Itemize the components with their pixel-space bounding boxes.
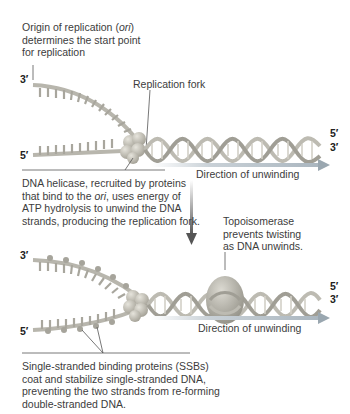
- topo-label-line3: as DNA unwinds.: [223, 240, 303, 253]
- top-strand-3prime-right: 3′: [330, 141, 338, 153]
- ssb-caption-line1: Single-stranded binding proteins (SSBs): [22, 360, 220, 373]
- ssb-caption: Single-stranded binding proteins (SSBs) …: [22, 360, 220, 410]
- helicase-caption: DNA helicase, recruited by proteins that…: [22, 177, 200, 227]
- fork-pointer-line: [146, 90, 150, 150]
- helicase-protein-bottom: [123, 290, 149, 322]
- replication-fork-label: Replication fork: [133, 78, 205, 91]
- bottom-panel-dna: [22, 252, 330, 353]
- ssb-caption-line3: preventing the two strands from re-formi…: [22, 385, 220, 398]
- direction-label-top: Direction of unwinding: [196, 168, 299, 180]
- helicase-ori-abbrev: ori: [94, 190, 106, 202]
- ori-label: Origin of replication (ori) determines t…: [22, 21, 140, 59]
- ori-label-line1: Origin of replication (: [22, 21, 119, 33]
- helicase-caption-line1: DNA helicase, recruited by proteins: [22, 177, 200, 190]
- topo-label-line2: prevents twisting: [223, 228, 303, 241]
- topo-label-line1: Topoisomerase: [223, 215, 303, 228]
- topoisomerase-label: Topoisomerase prevents twisting as DNA u…: [223, 215, 303, 253]
- helicase-caption-line4: strands, producing the replication fork.: [22, 215, 200, 228]
- ssb-caption-line4: double-stranded DNA.: [22, 398, 220, 411]
- helicase-bracket: [22, 158, 165, 170]
- top-strand-5prime-left: 5′: [20, 149, 28, 161]
- double-helix-top: [145, 138, 320, 162]
- helicase-caption-line2-end: , uses energy of: [106, 190, 181, 202]
- helicase-caption-line2: that bind to the: [22, 190, 94, 202]
- direction-label-bottom: Direction of unwinding: [198, 322, 301, 334]
- bottom-strand-3prime-left: 3′: [20, 249, 28, 261]
- bottom-strand-5prime-right: 5′: [330, 280, 338, 292]
- bottom-strand-5prime-left: 5′: [20, 325, 28, 337]
- ori-label-line2: determines the start point: [22, 34, 140, 47]
- bottom-strand-3prime-right: 3′: [330, 293, 338, 305]
- ori-label-close-paren: ): [131, 21, 135, 33]
- ori-label-line3: for replication: [22, 46, 140, 59]
- helicase-protein: [120, 132, 146, 164]
- ssb-caption-line2: coat and stabilize single-stranded DNA,: [22, 373, 220, 386]
- top-strand-5prime-right: 5′: [330, 127, 338, 139]
- top-strand-3prime-left: 3′: [20, 73, 28, 85]
- ori-abbrev: ori: [119, 21, 131, 33]
- helicase-caption-line3: ATP hydrolysis to unwind the DNA: [22, 202, 200, 215]
